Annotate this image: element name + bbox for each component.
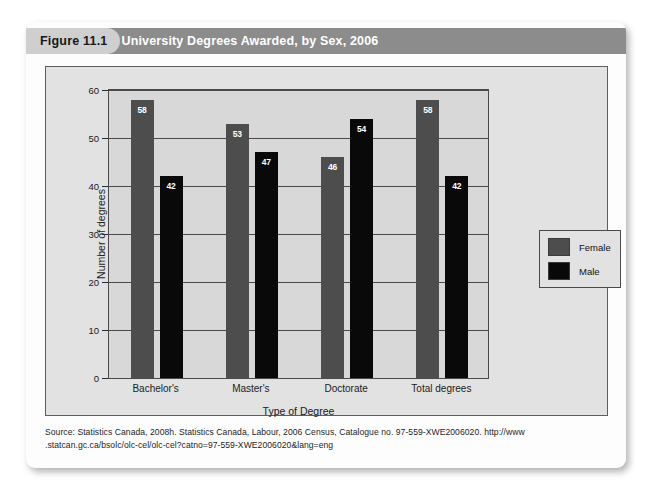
y-tick-mark <box>102 234 108 235</box>
bar-male-total-degrees: 42 <box>445 176 468 378</box>
x-axis-title: Type of Degree <box>108 405 489 417</box>
bar-male-doctorate: 54 <box>350 119 373 378</box>
source-note: Source: Statistics Canada, 2008h. Statis… <box>45 426 605 453</box>
y-tick-mark <box>102 138 108 139</box>
source-line-2: .statcan.gc.ca/bsolc/olc-cel/olc-cel?cat… <box>45 439 605 452</box>
bar-value-label: 58 <box>416 105 439 115</box>
legend-label-female: Female <box>579 242 611 253</box>
bar-female-doctorate: 46 <box>321 157 344 378</box>
y-tick-mark <box>102 378 108 379</box>
y-tick-label: 40 <box>88 181 99 192</box>
bar-male-bachelor-s: 42 <box>160 176 183 378</box>
y-tick-mark <box>102 186 108 187</box>
bar-value-label: 58 <box>131 105 154 115</box>
bar-value-label: 42 <box>445 181 468 191</box>
bars-layer: 5842534746545842 <box>109 90 488 378</box>
x-tick-label: Doctorate <box>324 383 367 394</box>
legend-swatch-male <box>548 262 570 280</box>
bar-value-label: 42 <box>160 181 183 191</box>
legend-swatch-female <box>548 238 570 256</box>
bar-male-master-s: 47 <box>255 152 278 378</box>
x-tick-label: Master's <box>232 383 269 394</box>
y-tick-label: 30 <box>88 229 99 240</box>
bar-female-total-degrees: 58 <box>416 100 439 378</box>
figure-title: University Degrees Awarded, by Sex, 2006 <box>108 28 626 54</box>
figure-number-label: Figure 11.1 <box>26 28 120 54</box>
bar-female-master-s: 53 <box>226 124 249 378</box>
bar-value-label: 54 <box>350 124 373 134</box>
legend-item-male: Male <box>548 262 611 280</box>
source-line-1: Source: Statistics Canada, 2008h. Statis… <box>45 426 605 439</box>
plot-wrap: Number of degrees 0102030405060 58425347… <box>108 89 489 379</box>
legend-item-female: Female <box>548 238 611 256</box>
chart-panel: Number of degrees 0102030405060 58425347… <box>45 66 608 416</box>
y-tick-mark <box>102 282 108 283</box>
bar-value-label: 46 <box>321 162 344 172</box>
y-tick-mark <box>102 90 108 91</box>
y-tick-label: 20 <box>88 277 99 288</box>
bar-value-label: 47 <box>255 157 278 167</box>
bar-female-bachelor-s: 58 <box>131 100 154 378</box>
x-tick-label: Total degrees <box>411 383 471 394</box>
legend-label-male: Male <box>579 266 600 277</box>
figure-header: Figure 11.1 University Degrees Awarded, … <box>26 28 626 54</box>
chart-legend: FemaleMale <box>539 230 621 288</box>
y-tick-label: 50 <box>88 133 99 144</box>
y-tick-label: 0 <box>94 373 99 384</box>
figure-card: Figure 11.1 University Degrees Awarded, … <box>26 22 626 468</box>
y-tick-mark <box>102 330 108 331</box>
x-tick-label: Bachelor's <box>132 383 178 394</box>
bar-value-label: 53 <box>226 129 249 139</box>
y-tick-label: 60 <box>88 85 99 96</box>
y-tick-label: 10 <box>88 325 99 336</box>
